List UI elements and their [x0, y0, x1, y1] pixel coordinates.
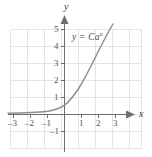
x-tick-label-neg1: –1 — [42, 119, 51, 128]
x-tick-label-1: 1 — [79, 119, 84, 128]
grid-lines — [11, 30, 142, 149]
x-tick-label-neg3: –3 — [8, 119, 17, 128]
x-tick-label-2: 2 — [96, 119, 101, 128]
x-tick-label-neg2: –2 — [25, 119, 34, 128]
y-tick-label-1: 1 — [54, 93, 59, 102]
y-axis-label: y — [64, 2, 68, 12]
equation-exponent: x — [100, 30, 103, 37]
equation-equals: = — [79, 32, 86, 42]
y-tick-label-4: 4 — [54, 42, 59, 51]
equation-lhs: y — [72, 32, 76, 42]
x-tick-label-3: 3 — [113, 119, 118, 128]
curve-equation-label: y = Cax — [72, 31, 103, 43]
graph-canvas — [0, 0, 152, 157]
y-tick-label-2: 2 — [54, 76, 59, 85]
exponential-graph-figure: y x y = Cax 1 2 3 4 5 –1 –3 –2 –1 1 2 3 — [0, 0, 152, 157]
y-tick-label-3: 3 — [54, 59, 59, 68]
y-tick-label-5: 5 — [54, 25, 59, 34]
y-tick-label-neg1: –1 — [50, 127, 59, 136]
x-axis-label: x — [139, 109, 143, 119]
